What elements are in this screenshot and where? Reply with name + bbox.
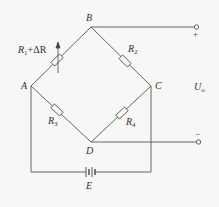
resistor-r1 [51, 54, 63, 66]
resistor-label-r1: R1+ΔR [18, 45, 46, 57]
node-label-c: C [155, 81, 162, 91]
battery-icon [86, 167, 95, 177]
circuit-diagram: B A C D R1+ΔR R2 R3 R4 E Uo + − [0, 0, 219, 207]
resistor-label-r3: R3 [48, 116, 58, 128]
output-voltage-label: Uo [194, 82, 205, 94]
node-label-b: B [86, 13, 92, 23]
resistor-label-r2: R2 [128, 44, 138, 56]
source-label-e: E [86, 181, 92, 191]
node-label-a: A [21, 81, 27, 91]
resistor-r2 [119, 55, 131, 67]
resistor-label-r4: R4 [126, 117, 136, 129]
node-label-d: D [86, 146, 93, 156]
plus-sign: + [193, 30, 198, 39]
circuit-wires [0, 0, 219, 207]
minus-sign: − [195, 130, 200, 139]
output-terminal-negative[interactable] [196, 140, 200, 144]
